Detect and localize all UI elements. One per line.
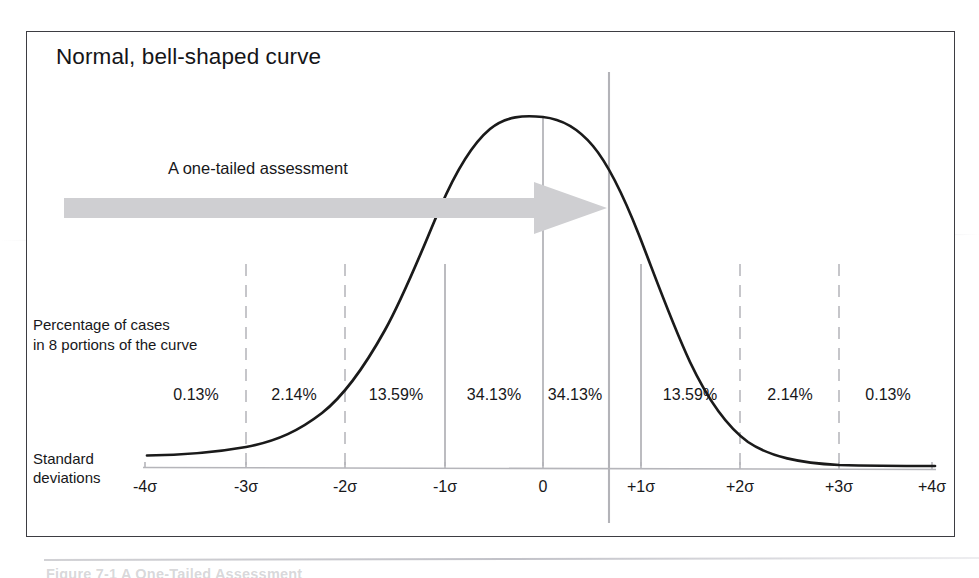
percentage-label: 0.13%	[173, 386, 218, 404]
percentage-label: 2.14%	[767, 386, 812, 404]
axis-tick-label: -3σ	[234, 478, 258, 496]
percentage-label: 34.13%	[467, 386, 521, 404]
percentage-label: 0.13%	[865, 386, 910, 404]
page-scan-artifact-bottom	[44, 557, 979, 561]
standard-deviations-caption: Standard deviations	[33, 449, 101, 487]
percentage-of-cases-caption: Percentage of cases in 8 portions of the…	[33, 315, 197, 355]
sd-caption-line-2: deviations	[33, 468, 101, 487]
axis-tick-label: +3σ	[825, 478, 853, 496]
percentage-caption-line-2: in 8 portions of the curve	[33, 335, 197, 355]
sd-caption-line-1: Standard	[33, 449, 101, 468]
axis-tick-label: -2σ	[333, 478, 357, 496]
percentage-label: 2.14%	[271, 386, 316, 404]
percentage-caption-line-1: Percentage of cases	[33, 315, 197, 335]
percentage-label: 34.13%	[548, 386, 602, 404]
percentage-label: 13.59%	[369, 386, 423, 404]
axis-tick-label: +2σ	[726, 478, 754, 496]
axis-tick-label: +4σ	[918, 478, 946, 496]
one-tailed-assessment-label: A one-tailed assessment	[168, 159, 348, 178]
figure-title: Normal, bell-shaped curve	[56, 44, 321, 70]
axis-tick-label: -1σ	[433, 478, 457, 496]
axis-tick-label: 0	[539, 478, 548, 496]
axis-tick-label: -4σ	[133, 478, 157, 496]
figure-frame	[26, 31, 955, 537]
percentage-label: 13.59%	[663, 386, 717, 404]
axis-tick-label: +1σ	[627, 478, 655, 496]
figure-caption-cropped: Figure 7-1 A One-Tailed Assessment	[46, 566, 746, 578]
